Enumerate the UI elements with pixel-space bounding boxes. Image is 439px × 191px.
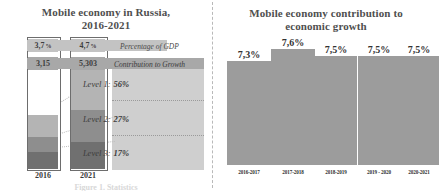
legend-level2-value: 27%	[114, 114, 130, 124]
bar-value-label-2017-2018: 7,6%	[269, 37, 317, 48]
left-chart-panel: Mobile economy in Russia, 2016-2021	[0, 0, 212, 191]
bar-2018-2019	[315, 56, 357, 165]
legend-separator-2	[112, 135, 204, 136]
figure-caption: Figure 1. Statistics	[0, 183, 212, 191]
legend-level2-label: Level 2:	[83, 114, 111, 124]
value-2016-gdp: 3,7%	[28, 39, 58, 52]
value-2016-contribution: 3,15	[28, 57, 58, 70]
bar-value-label-2020-2021: 7,5%	[397, 44, 439, 55]
legend-level1-label: Level 1:	[83, 79, 111, 89]
right-chart-panel: Mobile economy contribution to economic …	[213, 0, 439, 191]
value-2021-contribution: 5,303	[71, 57, 105, 70]
xaxis-label-2016-2017: 2016-2017	[225, 169, 273, 175]
value-2016-gdp-number: 3,7	[35, 41, 45, 50]
legend-level3-label: Level 3:	[83, 148, 111, 158]
value-2016-gdp-unit: %	[46, 43, 52, 49]
bar-value-label-2019-2020: 7,5%	[356, 44, 402, 55]
bar-value-label-2016-2017: 7,3%	[225, 49, 273, 60]
bar-2016-2017	[227, 61, 271, 165]
bar-2019-2020	[358, 56, 400, 165]
legend-row-level3: Level 3:17%	[0, 145, 212, 161]
legend-separator-1	[112, 100, 204, 101]
label-contribution-to-growth: Contribution to Growth	[114, 60, 185, 69]
left-stacked-chart-plot: 3,7% 4,7% 3,15 5,303 Percentage of GDP C…	[0, 0, 212, 191]
xaxis-label-2016: 2016	[27, 171, 59, 180]
value-2021-gdp-number: 4,7	[80, 41, 90, 50]
bar-2017-2018	[271, 49, 315, 165]
right-bar-chart-plot: 7,3% 2016-2017 7,6% 2017-2018 7,5% 2018-…	[213, 0, 439, 191]
xaxis-label-2021: 2021	[70, 171, 106, 180]
legend-level1-value: 56%	[114, 79, 130, 89]
xaxis-label-2020-2021: 2020-2021	[396, 169, 439, 175]
figure-container: Mobile economy in Russia, 2016-2021	[0, 0, 439, 191]
legend-row-level2: Level 2:27%	[0, 111, 212, 127]
value-2021-gdp: 4,7%	[71, 39, 105, 52]
xaxis-label-2017-2018: 2017-2018	[269, 169, 317, 175]
label-percentage-of-gdp: Percentage of GDP	[120, 42, 179, 51]
bar-value-label-2018-2019: 7,5%	[313, 44, 359, 55]
legend-row-level1: Level 1:56%	[0, 76, 212, 92]
bar-2020-2021	[399, 56, 439, 165]
xaxis-label-2018-2019: 2018-2019	[313, 169, 359, 175]
legend-level3-value: 17%	[114, 148, 130, 158]
value-2021-gdp-unit: %	[91, 43, 97, 49]
